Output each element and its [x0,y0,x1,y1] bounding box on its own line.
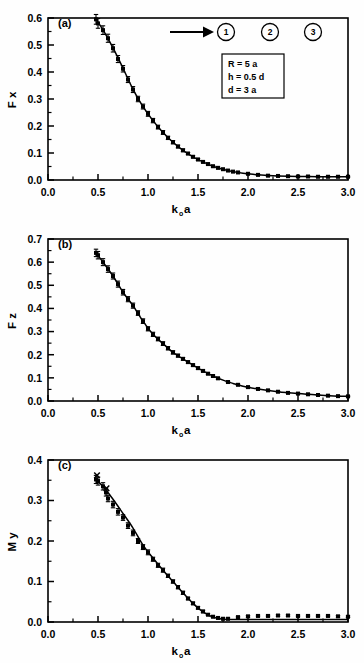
a-plot-data-point [94,17,98,21]
b-plot-data-point [296,392,300,396]
c-plot-data-point [256,614,260,618]
a-plot-data-point [126,78,130,82]
c-plot-data-point [296,614,300,618]
c-plot-data-point [176,585,180,589]
a-plot-data-point [151,119,155,123]
a-plot-data-point [136,97,140,101]
c-plot-data-point [206,613,210,617]
b-plot-ytick: 0.0 [27,395,42,407]
a-plot-data-point [221,167,225,171]
b-plot-data-point [306,392,310,396]
c-plot-data-point [181,591,185,595]
b-plot-data-point [121,290,125,294]
a-plot-data-point [131,88,135,92]
b-plot-data-point [166,346,170,350]
panel-c-label: (c) [58,459,72,471]
b-plot-ytick: 0.1 [27,372,42,384]
c-plot-data-point [246,614,250,618]
circled-number-1: 1 [218,24,235,41]
b-plot-ytick: 0.2 [27,349,42,361]
a-plot-data-point [111,46,115,50]
c-plot-ytick: 0.2 [27,535,42,547]
a-plot-ytick: 0.4 [27,66,42,78]
a-plot-data-point [121,67,125,71]
a-plot-data-point [211,164,215,168]
b-plot-data-point [111,274,115,278]
a-plot-data-point [181,148,185,152]
b-plot-ytick: 0.6 [27,256,42,268]
panel-b-svg: 0.00.10.20.30.40.50.60.70.00.51.01.52.02… [0,221,364,442]
c-plot-data-point [146,550,150,554]
c-plot-xtick: 1.5 [191,628,206,640]
b-plot-xtick: 1.5 [191,407,206,419]
a-plot-data-point [96,21,100,25]
a-plot-ytick: 0.3 [27,93,42,105]
b-plot-data-point [211,374,215,378]
a-plot-data-point [206,162,210,166]
b-plot-data-point [96,253,100,257]
panel-a-xlabel-tail: a [184,203,191,215]
svg-text:3: 3 [311,27,316,37]
a-plot-data-point [256,173,260,177]
b-plot-data-point [146,327,150,331]
c-plot-data-point [326,614,330,618]
c-plot-data-point [141,545,145,549]
b-plot-data-point [196,366,200,370]
a-plot-data-point [226,169,230,173]
b-plot-data-point [181,357,185,361]
panel-a: 0.00.10.20.30.40.50.60.00.51.01.52.02.53… [0,0,364,221]
a-plot-xtick: 2.5 [291,186,306,198]
a-plot-xtick: 2.0 [241,186,256,198]
panel-c: 0.00.10.20.30.40.00.51.01.52.02.53.0 M y… [0,442,364,663]
b-plot-xtick: 2.5 [291,407,306,419]
b-plot-data-point [176,354,180,358]
b-plot-data-point [246,385,250,389]
panel-b-xlabel-sub: o [179,431,183,438]
param-box: R = 5 a h = 0.5 d d = 3 a [222,54,284,98]
b-plot-ytick: 0.4 [27,302,42,314]
c-plot-data-point [346,615,350,619]
b-plot-data-point [206,372,210,376]
a-plot-data-point [146,112,150,116]
c-plot-xtick: 1.0 [141,628,156,640]
b-plot-xtick: 0.0 [41,407,56,419]
b-plot-data-point [141,319,145,323]
a-plot-data-point [316,175,320,179]
c-plot-ytick: 0.3 [27,494,42,506]
param-box-line-1: R = 5 a [228,59,258,69]
a-plot-data-point [191,155,195,159]
panel-a-xlabel-main: k [172,203,179,215]
panel-b-xlabel-tail: a [184,424,191,436]
c-plot-data-point [106,496,110,500]
svg-text:2: 2 [268,27,273,37]
c-plot-data-point [336,614,340,618]
panel-a-xlabel-sub: o [179,210,183,217]
a-plot-data-point [216,166,220,170]
a-plot-data-point [326,175,330,179]
c-plot-data-point [211,615,215,619]
c-plot-data-point [156,563,160,567]
c-plot-data-point [116,510,120,514]
b-plot-xtick: 3.0 [341,407,356,419]
a-plot-ytick: 0.0 [27,174,42,186]
a-plot-ytick: 0.5 [27,39,42,51]
b-plot-data-point [106,267,110,271]
a-plot-data-point [336,175,340,179]
a-plot-data-point [161,130,165,134]
c-plot-curve [95,479,348,619]
b-plot-data-point [161,342,165,346]
c-plot-ytick: 0.4 [27,454,42,466]
c-plot-ytick: 0.0 [27,616,42,628]
b-plot-data-point [126,297,130,301]
a-plot-ytick: 0.2 [27,120,42,132]
a-plot-data-point [246,172,250,176]
a-plot-data-point [231,170,235,174]
c-plot-data-point [276,614,280,618]
b-plot-data-point [276,390,280,394]
b-plot-data-point [101,260,105,264]
c-plot-data-point [306,614,310,618]
b-plot-data-point [201,369,205,373]
panel-c-svg: 0.00.10.20.30.40.00.51.01.52.02.53.0 M y… [0,442,364,663]
c-plot-data-point [236,615,240,619]
b-plot-data-point [151,332,155,336]
